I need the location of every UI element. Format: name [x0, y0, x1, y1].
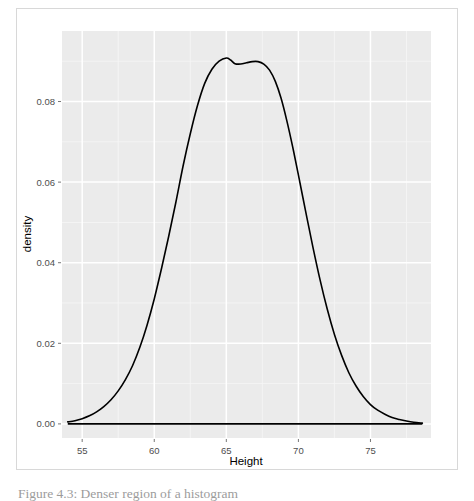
- y-tick-label: 0.04: [37, 257, 56, 268]
- figure-caption: Figure 4.3: Denser region of a histogram: [18, 486, 458, 501]
- x-axis-title: Height: [229, 455, 263, 467]
- y-axis-tick-labels: 0.000.020.040.060.08: [37, 96, 56, 429]
- figure-frame: 5560657075 0.000.020.040.060.08 Height d…: [16, 8, 458, 470]
- y-tick-label: 0.00: [37, 418, 56, 429]
- x-tick-label: 60: [149, 445, 160, 456]
- y-tick-label: 0.08: [37, 96, 56, 107]
- plot-panel-background: [62, 31, 431, 438]
- x-tick-label: 75: [365, 445, 376, 456]
- plot-svg: 5560657075 0.000.020.040.060.08 Height d…: [17, 9, 457, 469]
- y-tick-label: 0.06: [37, 177, 56, 188]
- y-axis-title: density: [21, 216, 33, 253]
- x-tick-label: 70: [293, 445, 304, 456]
- x-axis-tick-labels: 5560657075: [77, 445, 376, 456]
- y-tick-label: 0.02: [37, 338, 56, 349]
- x-tick-label: 55: [77, 445, 88, 456]
- density-plot: 5560657075 0.000.020.040.060.08 Height d…: [17, 9, 457, 469]
